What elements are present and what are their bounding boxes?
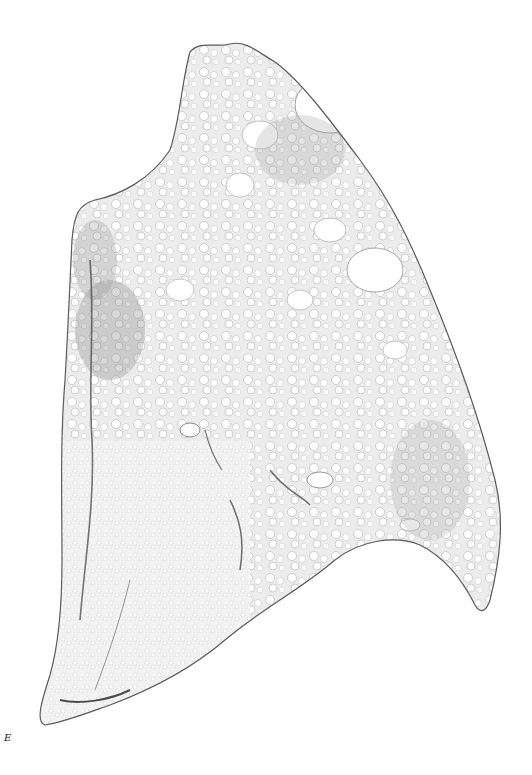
lung-tissue	[0, 0, 532, 775]
tissue-section-image	[0, 0, 532, 775]
panel-label: E	[4, 732, 11, 743]
